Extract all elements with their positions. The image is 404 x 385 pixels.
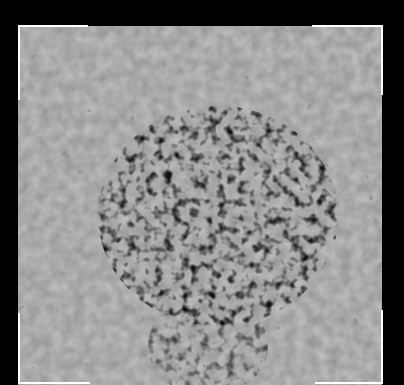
- corner-bracket-bottom-left-h: [18, 382, 90, 384]
- corner-bracket-bottom-right-h: [315, 382, 383, 384]
- corner-bracket-top-left-v: [18, 25, 20, 100]
- noise-texture-image: [18, 26, 382, 385]
- texture-canvas: [18, 26, 382, 385]
- corner-bracket-top-right-v: [381, 25, 383, 95]
- corner-bracket-bottom-left-v: [18, 313, 20, 384]
- corner-bracket-bottom-right-v: [381, 310, 383, 384]
- corner-bracket-top-left-h: [18, 25, 88, 27]
- corner-bracket-top-right-h: [312, 25, 383, 27]
